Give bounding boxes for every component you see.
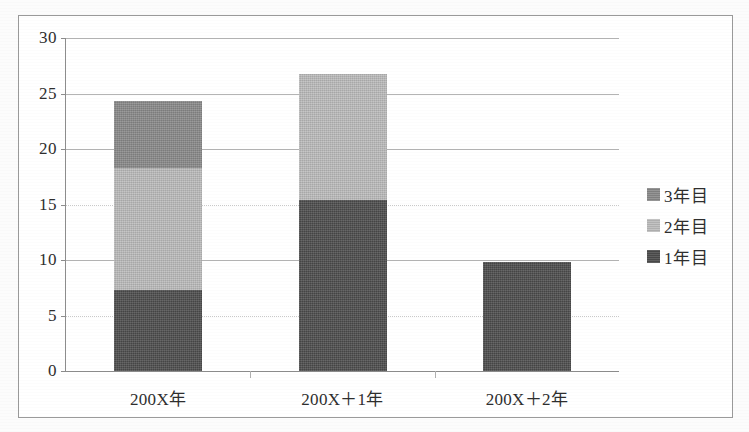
bar-segment-1年目[interactable] — [483, 262, 571, 371]
legend-swatch-icon — [647, 188, 660, 201]
stacked-bar[interactable] — [483, 262, 571, 371]
tick-mark-30 — [61, 38, 66, 39]
y-axis-tick-label: 0 — [48, 361, 57, 381]
category-separator — [250, 371, 251, 378]
tick-mark-0 — [61, 371, 66, 372]
legend-swatch-icon — [647, 219, 660, 232]
legend-item[interactable]: 2年目 — [647, 210, 708, 241]
tick-mark-15 — [61, 205, 66, 206]
bar-group[interactable]: 200X＋1年 — [299, 38, 387, 371]
y-axis-tick-label: 25 — [39, 84, 57, 104]
category-label: 200X年 — [130, 385, 186, 410]
bar-segment-2年目[interactable] — [114, 168, 202, 290]
category-label: 200X＋1年 — [301, 385, 383, 410]
bar-group[interactable]: 200X年 — [114, 38, 202, 371]
tick-mark-20 — [61, 149, 66, 150]
chart-legend: 3年目2年目1年目 — [647, 179, 708, 272]
y-axis-tick-label: 10 — [39, 250, 57, 270]
tick-mark-10 — [61, 260, 66, 261]
y-axis-tick-label: 5 — [48, 306, 57, 326]
category-label: 200X＋2年 — [486, 385, 568, 410]
legend-label: 2年目 — [664, 213, 708, 238]
legend-label: 1年目 — [664, 244, 708, 269]
tick-mark-5 — [61, 316, 66, 317]
bar-segment-1年目[interactable] — [114, 290, 202, 371]
bar-segment-2年目[interactable] — [299, 74, 387, 201]
legend-item[interactable]: 3年目 — [647, 179, 708, 210]
y-axis-tick-label: 20 — [39, 139, 57, 159]
y-axis-tick-label: 15 — [39, 195, 57, 215]
y-axis-tick-label: 30 — [39, 28, 57, 48]
legend-label: 3年目 — [664, 182, 708, 207]
legend-swatch-icon — [647, 250, 660, 263]
stacked-bar[interactable] — [114, 101, 202, 371]
chart-frame: 302520151050 200X年200X＋1年200X＋2年 3年目2年目1… — [18, 15, 733, 418]
bar-segment-1年目[interactable] — [299, 200, 387, 371]
legend-item[interactable]: 1年目 — [647, 241, 708, 272]
stacked-bar[interactable] — [299, 74, 387, 371]
plot-area: 302520151050 200X年200X＋1年200X＋2年 — [65, 38, 619, 372]
category-separator — [435, 371, 436, 378]
bar-segment-3年目[interactable] — [114, 101, 202, 168]
tick-mark-25 — [61, 94, 66, 95]
bar-group[interactable]: 200X＋2年 — [483, 38, 571, 371]
